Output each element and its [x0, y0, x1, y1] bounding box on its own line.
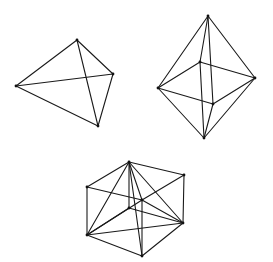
vertex-dot: [97, 125, 100, 128]
edge-line: [200, 62, 255, 78]
edge-line: [129, 162, 142, 200]
edge-line: [158, 88, 213, 104]
vertex-dot: [86, 234, 89, 237]
vertex-dot: [15, 85, 18, 88]
edge-line: [158, 88, 204, 138]
edge-line: [87, 200, 142, 235]
vertex-dot: [141, 255, 144, 258]
edge-line: [142, 223, 183, 256]
edge-line: [77, 40, 113, 74]
vertex-dot: [182, 222, 185, 225]
vertex-dot: [128, 161, 131, 164]
tetrahedron-figure: [15, 39, 115, 128]
edge-line: [87, 235, 142, 256]
vertex-dot: [199, 61, 202, 64]
edge-line: [77, 40, 98, 126]
vertex-dot: [212, 103, 215, 106]
vertex-dot: [86, 186, 89, 189]
vertex-dot: [183, 174, 186, 177]
edge-line: [129, 162, 184, 175]
vertex-dot: [76, 39, 79, 42]
edge-line: [129, 162, 183, 223]
vertex-dot: [141, 199, 144, 202]
vertex-dot: [112, 73, 115, 76]
vertex-dot: [254, 77, 257, 80]
edge-line: [87, 223, 183, 235]
edge-line: [208, 16, 213, 104]
edge-line: [16, 74, 113, 86]
edge-line: [142, 175, 184, 200]
edge-line: [158, 62, 200, 88]
edge-line: [200, 16, 208, 62]
polyhedra-diagram: [0, 0, 273, 262]
edge-line: [16, 86, 98, 126]
edge-line: [87, 162, 129, 235]
octahedron-figure: [157, 15, 257, 140]
edge-line: [213, 78, 255, 104]
edge-line: [98, 74, 113, 126]
edge-line: [87, 162, 129, 187]
vertex-dot: [207, 15, 210, 18]
vertex-dot: [157, 87, 160, 90]
cube-figure: [86, 161, 186, 258]
vertex-dot: [128, 207, 131, 210]
edge-line: [183, 175, 184, 223]
edge-line: [208, 16, 255, 78]
edge-line: [142, 200, 183, 223]
vertex-dot: [203, 137, 206, 140]
